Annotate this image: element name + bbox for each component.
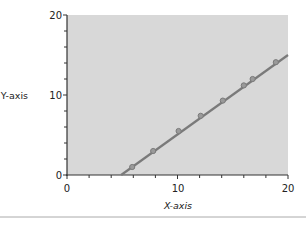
data-point: [130, 164, 135, 169]
data-point: [250, 76, 255, 81]
x-tick-20: 20: [282, 183, 295, 194]
data-point: [198, 113, 203, 118]
y-tick-10: 10: [49, 90, 62, 101]
y-tick-0: 0: [56, 170, 62, 181]
data-point: [151, 148, 156, 153]
x-tick-0: 0: [64, 183, 70, 194]
y-axis-label: Y-axis: [0, 90, 28, 101]
x-axis-label: X-axis: [163, 200, 192, 211]
data-point: [273, 60, 278, 65]
y-tick-20: 20: [49, 10, 62, 21]
data-point: [241, 83, 246, 88]
data-point: [220, 98, 225, 103]
chart: 20 10 0 0 10 20 X-axis Y-axis: [0, 0, 306, 225]
plot-area: [67, 15, 288, 175]
data-point: [176, 128, 181, 133]
x-tick-10: 10: [172, 183, 185, 194]
